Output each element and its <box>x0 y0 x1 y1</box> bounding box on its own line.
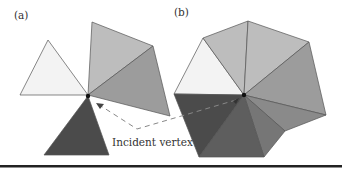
bottom-rule <box>0 165 342 168</box>
panel-label-a: (a) <box>14 9 28 21</box>
diagram-canvas: (a) (b) Incident vertex <box>0 0 342 170</box>
panel-label-b: (b) <box>174 6 189 18</box>
incident-vertex-a <box>86 94 90 98</box>
panel-b <box>174 21 326 157</box>
incident-vertex-b <box>242 93 246 97</box>
incident-vertex-label: Incident vertex <box>112 136 193 148</box>
triangle-white <box>20 40 88 95</box>
arrowhead-icon <box>96 103 104 109</box>
